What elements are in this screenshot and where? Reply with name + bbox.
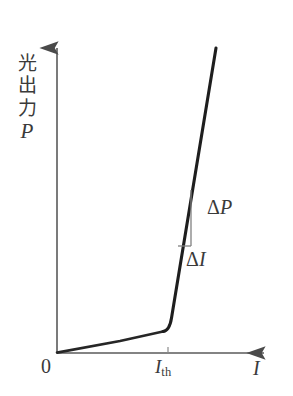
delta-p-symbol-glyph: P — [220, 196, 232, 218]
y-axis-label-char-1: 光 — [14, 52, 40, 74]
delta-p-annotation: ΔP — [207, 197, 232, 217]
laser-li-curve-figure: 光 出 力 P 0 Ith I ΔP ΔI — [0, 0, 293, 396]
plot-canvas — [0, 0, 293, 396]
li-curve-knee-and-lasing-slope — [163, 48, 216, 332]
y-axis-label-char-3: 力 — [14, 97, 40, 119]
y-axis-symbol-p: P — [14, 121, 40, 142]
delta-i-symbol-glyph: I — [199, 248, 206, 270]
threshold-subscript: th — [161, 365, 171, 379]
y-axis-label-char-2: 出 — [14, 74, 40, 96]
y-axis-label: 光 出 力 — [14, 52, 40, 119]
threshold-current-label: Ith — [155, 357, 171, 376]
delta-i-annotation: ΔI — [186, 249, 206, 269]
li-curve-below-threshold — [57, 332, 163, 353]
x-axis-symbol-i: I — [253, 358, 260, 378]
delta-i-delta-glyph: Δ — [186, 248, 199, 270]
delta-p-delta-glyph: Δ — [207, 196, 220, 218]
origin-label-zero: 0 — [41, 356, 51, 376]
